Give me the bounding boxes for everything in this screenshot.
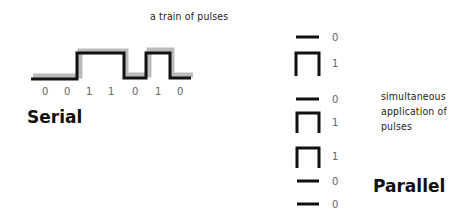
parallel-title: Parallel <box>373 176 445 196</box>
serial-title: Serial <box>27 107 82 127</box>
parallel-bit: 1 <box>332 151 338 162</box>
parallel-caption-line: application of <box>381 104 447 119</box>
parallel-bit: 0 <box>332 32 338 43</box>
serial-bit: 1 <box>155 86 161 97</box>
parallel-caption-line: pulses <box>381 119 412 134</box>
serial-bit: 0 <box>64 86 70 97</box>
serial-caption: a train of pulses <box>150 9 228 24</box>
serial-bit: 0 <box>177 86 183 97</box>
parallel-bit: 1 <box>332 58 338 69</box>
serial-bit: 1 <box>108 86 114 97</box>
parallel-symbols <box>296 37 319 204</box>
parallel-bit: 1 <box>332 117 338 128</box>
serial-bit: 0 <box>42 86 48 97</box>
parallel-bit: 0 <box>332 199 338 210</box>
parallel-caption-line: simultaneous <box>381 89 446 104</box>
serial-bit: 1 <box>86 86 92 97</box>
serial-bit: 0 <box>132 86 138 97</box>
parallel-bit: 0 <box>332 94 338 105</box>
parallel-bit: 0 <box>332 176 338 187</box>
